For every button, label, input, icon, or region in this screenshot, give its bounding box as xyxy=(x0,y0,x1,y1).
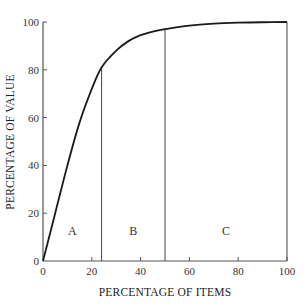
y-axis-title: PERCENTAGE OF VALUE xyxy=(4,74,16,209)
x-tick-label: 40 xyxy=(135,265,147,277)
zone-label-a: A xyxy=(68,224,77,238)
x-tick-label: 100 xyxy=(279,265,296,277)
y-tick-label: 40 xyxy=(28,159,40,171)
axis-ticks: 020406080100020406080100 xyxy=(23,16,296,277)
y-tick-label: 0 xyxy=(34,255,40,267)
y-tick-label: 20 xyxy=(28,207,40,219)
abc-analysis-chart: 020406080100020406080100 A B C PERCENTAG… xyxy=(0,0,307,305)
x-tick-label: 0 xyxy=(40,265,46,277)
x-tick-label: 20 xyxy=(86,265,98,277)
y-tick-label: 80 xyxy=(28,64,40,76)
y-tick-label: 60 xyxy=(28,112,40,124)
x-tick-label: 80 xyxy=(233,265,245,277)
zone-label-b: B xyxy=(129,224,137,238)
x-tick-label: 60 xyxy=(184,265,196,277)
y-tick-label: 100 xyxy=(23,16,40,28)
zone-label-c: C xyxy=(222,224,230,238)
zone-labels: A B C xyxy=(68,224,230,238)
x-axis-title: PERCENTAGE OF ITEMS xyxy=(99,286,232,298)
